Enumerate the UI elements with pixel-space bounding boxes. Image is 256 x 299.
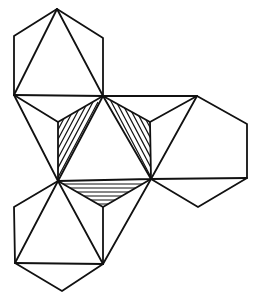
central-triangle — [58, 96, 151, 181]
left-connector-edges — [14, 95, 58, 181]
right-hexagon — [103, 96, 247, 207]
top-hexagon — [14, 9, 103, 96]
polyhedron-net-diagram: Net of a polyhedron (three hexagonal fla… — [0, 0, 256, 299]
